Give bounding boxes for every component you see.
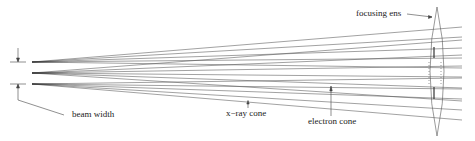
electron-cone-label: electron cone	[308, 116, 356, 126]
source-points	[32, 61, 70, 84]
optics-diagram	[0, 0, 475, 141]
beam-width-marker	[10, 48, 64, 115]
beam-width-label: beam width	[72, 109, 114, 119]
focusing-lens-label: focusing ens	[356, 8, 401, 18]
xray-cone-label: x−ray cone	[226, 108, 266, 118]
label-pointers	[247, 14, 432, 116]
electron-cone-rays	[32, 27, 462, 120]
focusing-lens	[429, 7, 444, 136]
